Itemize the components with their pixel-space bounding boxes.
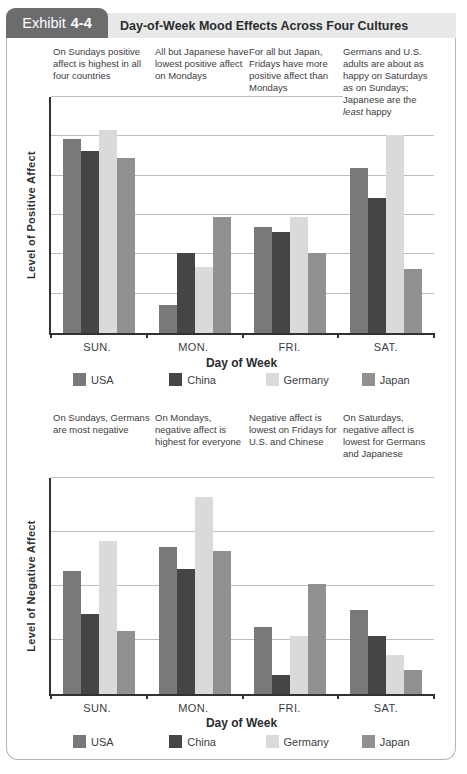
germany-swatch-icon [266,735,279,748]
category-label-fri: FRI. [242,702,338,714]
china-swatch-icon [169,735,182,748]
exhibit-title: Day-of-Week Mood Effects Across Four Cul… [106,19,408,33]
legend-item-germany: Germany [242,373,338,386]
y-axis-label-positive: Level of Positive Affect [25,96,37,334]
category-label-mon: MON. [145,702,241,714]
bar-germany-mon [195,497,213,694]
bar-germany-fri [290,636,308,694]
axis-tick [146,333,148,338]
legend-negative: USA China Germany Japan [49,735,434,748]
usa-swatch-icon [73,735,86,748]
bar-germany-sat [386,655,404,694]
bar-group-sun [51,478,147,694]
legend-item-japan: Japan [338,373,434,386]
annotation-negative-saturday: On Saturdays, negative affect is lowest … [343,412,439,460]
axis-tick [433,694,435,699]
japan-swatch-icon [362,373,375,386]
legend-item-germany: Germany [242,735,338,748]
axis-tick [50,694,52,699]
annotation-positive-sunday: On Sundays positive affect is highest in… [53,46,155,82]
positive-affect-chart [49,97,434,335]
annotation-positive-monday: All but Japanese have lowest positive af… [155,46,249,82]
bar-usa-mon [159,305,177,333]
legend-item-usa: USA [49,373,145,386]
china-swatch-icon [169,373,182,386]
bar-group-fri [243,97,339,333]
bar-japan-sat [404,269,422,333]
exhibit-page: { "header": { "tab_label": "Exhibit", "t… [0,0,467,774]
category-label-sat: SAT. [338,702,434,714]
x-axis-label-positive: Day of Week [49,356,434,370]
bar-japan-sun [117,631,135,694]
bar-china-sat [368,636,386,694]
bar-germany-sat [386,135,404,333]
category-labels-negative: SUN.MON.FRI.SAT. [49,702,434,714]
bar-china-fri [272,232,290,333]
bar-japan-sun [117,158,135,333]
legend-label-china: China [187,374,216,386]
category-label-sat: SAT. [338,341,434,353]
axis-tick [242,333,244,338]
legend-item-japan: Japan [338,735,434,748]
category-labels-positive: SUN.MON.FRI.SAT. [49,341,434,353]
axis-tick [242,694,244,699]
bar-germany-mon [195,267,213,333]
legend-label-germany: Germany [284,374,329,386]
category-label-sun: SUN. [49,702,145,714]
axis-tick [337,333,339,338]
bar-usa-fri [254,227,272,333]
bar-usa-sun [63,139,81,333]
legend-label-china: China [187,736,216,748]
bar-usa-sun [63,571,81,694]
axis-tick [433,333,435,338]
bar-china-fri [272,675,290,694]
bar-group-mon [147,478,243,694]
bar-china-sun [81,614,99,694]
exhibit-tab-label: Exhibit [22,15,66,31]
bar-china-mon [177,253,195,333]
y-axis-label-negative: Level of Negative Affect [25,477,37,695]
legend-item-china: China [145,373,241,386]
legend-positive: USA China Germany Japan [49,373,434,386]
axis-tick [337,694,339,699]
bar-japan-fri [308,253,326,333]
japan-swatch-icon [362,735,375,748]
annotation-positive-friday: For all but Japan, Fridays have more pos… [249,46,343,94]
annotation-negative-friday: Negative affect is lowest on Fridays for… [249,412,343,448]
bar-germany-fri [290,217,308,333]
x-axis-label-negative: Day of Week [49,716,434,730]
category-label-sun: SUN. [49,341,145,353]
bar-groups [51,97,434,333]
bar-groups [51,478,434,694]
category-label-fri: FRI. [242,341,338,353]
exhibit-number: 4-4 [71,15,92,31]
legend-label-japan: Japan [380,374,410,386]
bar-japan-mon [213,551,231,694]
bar-germany-sun [99,130,117,333]
axis-tick [146,694,148,699]
annotation-negative-monday: On Mondays, negative affect is highest f… [155,412,249,448]
bar-usa-fri [254,627,272,694]
legend-label-germany: Germany [284,736,329,748]
bar-germany-sun [99,541,117,694]
usa-swatch-icon [73,373,86,386]
legend-item-usa: USA [49,735,145,748]
bar-china-sat [368,198,386,333]
bar-usa-mon [159,547,177,694]
legend-item-china: China [145,735,241,748]
bar-china-mon [177,569,195,694]
germany-swatch-icon [266,373,279,386]
header-bar: Day-of-Week Mood Effects Across Four Cul… [106,13,456,38]
bar-group-mon [147,97,243,333]
bar-group-sat [338,97,434,333]
bar-usa-sat [350,168,368,333]
legend-label-japan: Japan [380,736,410,748]
bar-china-sun [81,151,99,333]
annotation-negative-sunday: On Sundays, Germans are most negative [53,412,155,436]
axis-tick [50,333,52,338]
annotation-positive-saturday: Germans and U.S. adults are about as hap… [343,46,439,118]
bar-japan-sat [404,670,422,694]
exhibit-tab: Exhibit 4-4 [6,8,108,38]
negative-affect-chart [49,478,434,696]
bar-japan-fri [308,584,326,694]
